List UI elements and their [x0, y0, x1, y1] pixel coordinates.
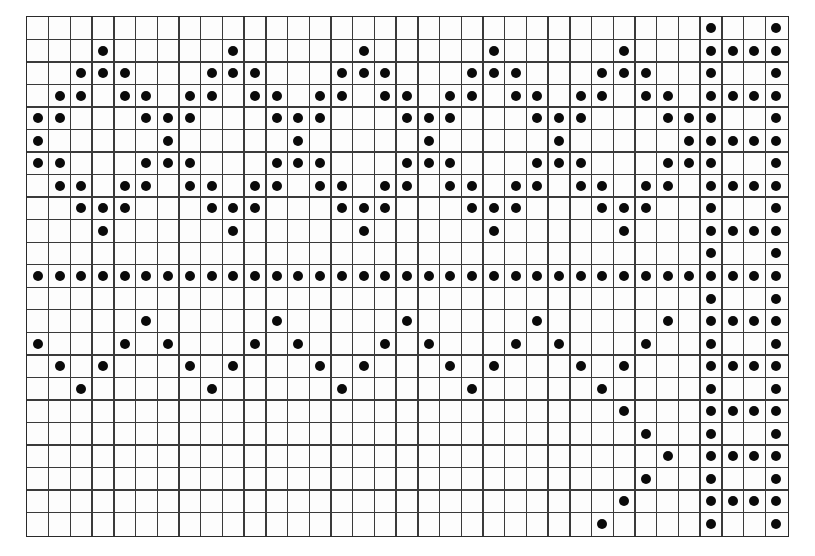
grid-dot: [141, 91, 151, 101]
grid-dot: [749, 46, 759, 56]
grid-line-horizontal: [27, 84, 788, 85]
grid-line-horizontal: [27, 196, 788, 197]
grid-dot: [293, 158, 303, 168]
grid-dot: [706, 271, 716, 281]
grid-dot: [771, 91, 781, 101]
grid-dot: [771, 339, 781, 349]
grid-line-horizontal: [27, 219, 788, 220]
grid-line-vertical: [135, 17, 136, 536]
grid-dot: [359, 46, 369, 56]
grid-dot: [76, 203, 86, 213]
grid-dot: [663, 451, 673, 461]
grid-dot: [250, 203, 260, 213]
grid-dot: [771, 429, 781, 439]
grid-dot: [684, 136, 694, 146]
grid-dot: [597, 271, 607, 281]
grid-dot: [98, 46, 108, 56]
grid-dot: [706, 451, 716, 461]
grid-dot: [597, 519, 607, 529]
dot-grid: [26, 16, 789, 537]
grid-dot: [771, 361, 781, 371]
grid-line-vertical: [699, 17, 700, 536]
grid-dot: [424, 339, 434, 349]
grid-dot: [554, 339, 564, 349]
grid-dot: [120, 271, 130, 281]
grid-line-horizontal: [27, 129, 788, 130]
grid-dot: [728, 46, 738, 56]
grid-dot: [706, 496, 716, 506]
grid-dot: [749, 361, 759, 371]
grid-dot: [185, 91, 195, 101]
grid-dot: [424, 158, 434, 168]
grid-line-horizontal: [27, 444, 788, 445]
grid-dot: [337, 181, 347, 191]
grid-line-vertical: [200, 17, 201, 536]
grid-dot: [141, 113, 151, 123]
grid-dot: [706, 316, 716, 326]
grid-dot: [663, 316, 673, 326]
grid-dot: [250, 91, 260, 101]
grid-dot: [250, 68, 260, 78]
grid-dot: [315, 181, 325, 191]
grid-dot: [684, 271, 694, 281]
grid-dot: [554, 158, 564, 168]
grid-dot: [98, 203, 108, 213]
grid-dot: [771, 248, 781, 258]
grid-dot: [293, 339, 303, 349]
grid-dot: [33, 158, 43, 168]
grid-dot: [424, 136, 434, 146]
grid-dot: [706, 294, 716, 304]
grid-dot: [706, 158, 716, 168]
grid-dot: [771, 271, 781, 281]
grid-dot: [55, 361, 65, 371]
grid-line-vertical: [439, 17, 440, 536]
grid-dot: [33, 339, 43, 349]
grid-line-horizontal: [27, 467, 788, 468]
grid-dot: [706, 226, 716, 236]
grid-dot: [98, 271, 108, 281]
grid-dot: [402, 181, 412, 191]
grid-dot: [55, 181, 65, 191]
grid-dot: [402, 113, 412, 123]
grid-dot: [141, 181, 151, 191]
grid-dot: [771, 113, 781, 123]
grid-dot: [424, 113, 434, 123]
grid-line-vertical: [417, 17, 418, 536]
grid-line-vertical: [395, 17, 396, 536]
grid-dot: [207, 384, 217, 394]
grid-dot: [293, 271, 303, 281]
grid-dot: [706, 474, 716, 484]
grid-dot: [55, 91, 65, 101]
grid-dot: [489, 361, 499, 371]
grid-dot: [619, 496, 629, 506]
grid-dot: [380, 68, 390, 78]
grid-dot: [619, 68, 629, 78]
grid-dot: [163, 113, 173, 123]
grid-dot: [554, 136, 564, 146]
grid-line-horizontal: [27, 332, 788, 333]
grid-dot: [728, 271, 738, 281]
grid-dot: [641, 474, 651, 484]
grid-dot: [380, 91, 390, 101]
grid-dot: [728, 496, 738, 506]
grid-line-vertical: [309, 17, 310, 536]
grid-line-vertical: [91, 17, 92, 536]
grid-dot: [33, 113, 43, 123]
grid-dot: [771, 316, 781, 326]
grid-dot: [706, 406, 716, 416]
grid-dot: [315, 158, 325, 168]
grid-dot: [749, 181, 759, 191]
grid-dot: [576, 271, 586, 281]
grid-line-horizontal: [27, 242, 788, 243]
grid-dot: [511, 271, 521, 281]
grid-line-horizontal: [27, 151, 788, 152]
grid-dot: [55, 158, 65, 168]
grid-dot: [706, 23, 716, 33]
grid-dot: [771, 474, 781, 484]
grid-dot: [76, 91, 86, 101]
grid-dot: [445, 158, 455, 168]
grid-line-vertical: [591, 17, 592, 536]
grid-dot: [532, 91, 542, 101]
grid-dot: [511, 339, 521, 349]
grid-dot: [576, 181, 586, 191]
